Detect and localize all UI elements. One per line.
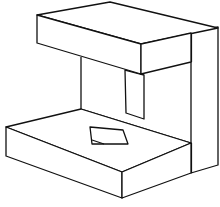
right-pillar	[191, 27, 218, 173]
drawing	[0, 0, 220, 207]
small-square	[90, 127, 128, 144]
base-slab	[6, 109, 191, 198]
hanging-tab	[125, 70, 144, 119]
isometric-block-drawing	[0, 0, 220, 207]
